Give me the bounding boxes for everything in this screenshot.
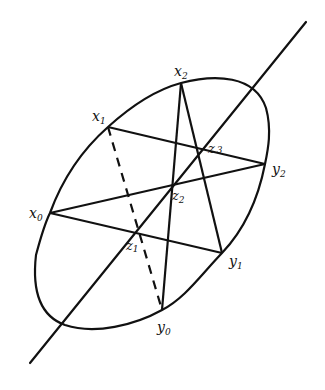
chord-x1-y2 [108,127,265,164]
label-y1: y1 [228,253,243,271]
label-y0: y0 [156,319,171,337]
label-z2: z2 [171,188,185,205]
label-x0: x0 [29,205,43,223]
ellipse [35,78,269,329]
chord-x1-y0-dashed [108,127,162,310]
label-y2: y2 [271,161,286,179]
label-x1: x1 [92,108,106,126]
label-x2: x2 [174,63,188,81]
diagram-svg: x2 x1 x0 y2 y1 y0 z3 z2 z1 [0,0,325,390]
label-z1: z1 [125,238,139,254]
axis-line [30,22,306,363]
label-z3: z3 [207,141,223,156]
diagram-canvas: x2 x1 x0 y2 y1 y0 z3 z2 z1 [0,0,325,390]
